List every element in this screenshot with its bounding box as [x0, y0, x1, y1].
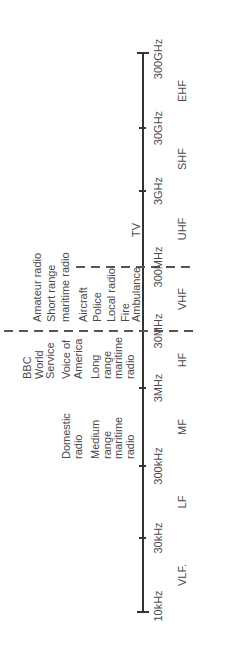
frequency-spectrum-diagram: 10kHz 30kHz 300kHz 3MHz 30MHz 300MHz 3GH… — [0, 0, 235, 649]
freq-label-3ghz: 3GHz — [152, 177, 164, 205]
use-tv: TV — [131, 223, 143, 237]
use-amateur-radio: Amateur radio — [32, 253, 44, 322]
use-maritime-radio: maritime radio — [60, 252, 72, 322]
freq-label-30ghz: 30GHz — [152, 111, 164, 145]
freq-label-300ghz: 300GHz — [152, 39, 164, 79]
band-label-hf: HF — [176, 353, 188, 368]
use-police: Police — [92, 292, 104, 322]
band-label-vhf: VHF — [176, 288, 188, 310]
tick-3mhz — [139, 388, 146, 390]
freq-label-300mhz: 300MHz — [152, 247, 164, 288]
use-aircraft: Aircraft — [78, 287, 90, 322]
use-short-range: Short range — [46, 265, 58, 322]
dashed-line-30mhz — [4, 331, 196, 333]
freq-label-300khz: 300kHz — [152, 447, 164, 484]
band-label-shf: SHF — [176, 148, 188, 170]
band-label-uhf: UHF — [176, 218, 188, 241]
tick-10khz — [137, 612, 149, 614]
tick-30khz — [139, 538, 146, 540]
use-ambulance: Ambulance — [131, 267, 143, 322]
use-local-radio: Local radio — [106, 268, 118, 322]
band-label-mf: MF — [176, 419, 188, 435]
band-label-ehf: EHF — [176, 80, 188, 102]
band-label-vlf: VLF. — [176, 564, 188, 586]
use-long-range-maritime-radio: Long range maritime radio — [90, 337, 136, 379]
band-label-lf: LF — [176, 496, 188, 509]
freq-label-3mhz: 3MHz — [152, 374, 164, 403]
tick-300ghz — [137, 53, 149, 55]
frequency-axis — [142, 53, 144, 612]
use-bbc-world-service: BBC World Service — [22, 342, 57, 379]
use-voice-of-america: Voice of America — [61, 339, 84, 379]
freq-label-30mhz: 30MHz — [152, 314, 164, 349]
use-medium-range-maritime-radio: Medium range maritime radio — [90, 417, 136, 459]
use-domestic-radio: Domestic radio — [61, 413, 84, 459]
freq-label-10khz: 10kHz — [152, 590, 164, 621]
tick-30ghz — [139, 128, 146, 130]
freq-label-30khz: 30kHz — [152, 522, 164, 553]
tick-300khz — [139, 466, 146, 468]
tick-3ghz — [139, 191, 146, 193]
